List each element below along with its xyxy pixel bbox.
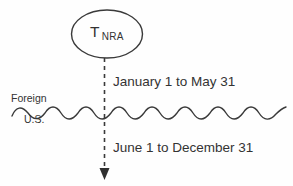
period-second-label: June 1 to December 31 (113, 141, 253, 155)
diagram-canvas: TNRA January 1 to May 31 June 1 to Decem… (0, 0, 293, 186)
boundary-us-label: U.S. (24, 114, 44, 125)
entity-symbol: T (90, 23, 100, 40)
entity-subscript: NRA (102, 31, 124, 42)
boundary-wavy-line (12, 107, 286, 119)
period-first-label: January 1 to May 31 (113, 75, 235, 89)
entity-label: TNRA (90, 24, 122, 40)
flow-arrowhead-icon (100, 168, 110, 180)
boundary-foreign-label: Foreign (11, 93, 47, 104)
